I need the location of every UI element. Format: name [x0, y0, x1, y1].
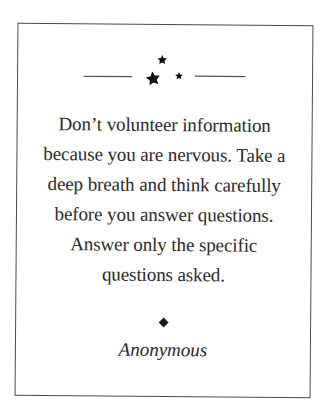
quote-line: before you answer questions. — [17, 199, 311, 231]
quote-line: deep breath and think carefully — [17, 169, 311, 201]
star-icon — [145, 71, 161, 86]
star-icon — [157, 55, 167, 64]
quote-line: Answer only the specific — [17, 229, 311, 261]
quote-line: because you are nervous. Take a — [17, 139, 311, 171]
quote-line: Don’t volunteer information — [18, 109, 312, 141]
quote-text: Don’t volunteer information because you … — [16, 109, 311, 291]
diamond-icon — [159, 318, 169, 328]
quote-line: questions asked. — [16, 259, 310, 291]
star-ornament — [18, 24, 313, 106]
quote-card: Don’t volunteer information because you … — [15, 23, 314, 398]
star-icon — [175, 72, 183, 79]
quote-author: Anonymous — [16, 338, 310, 362]
